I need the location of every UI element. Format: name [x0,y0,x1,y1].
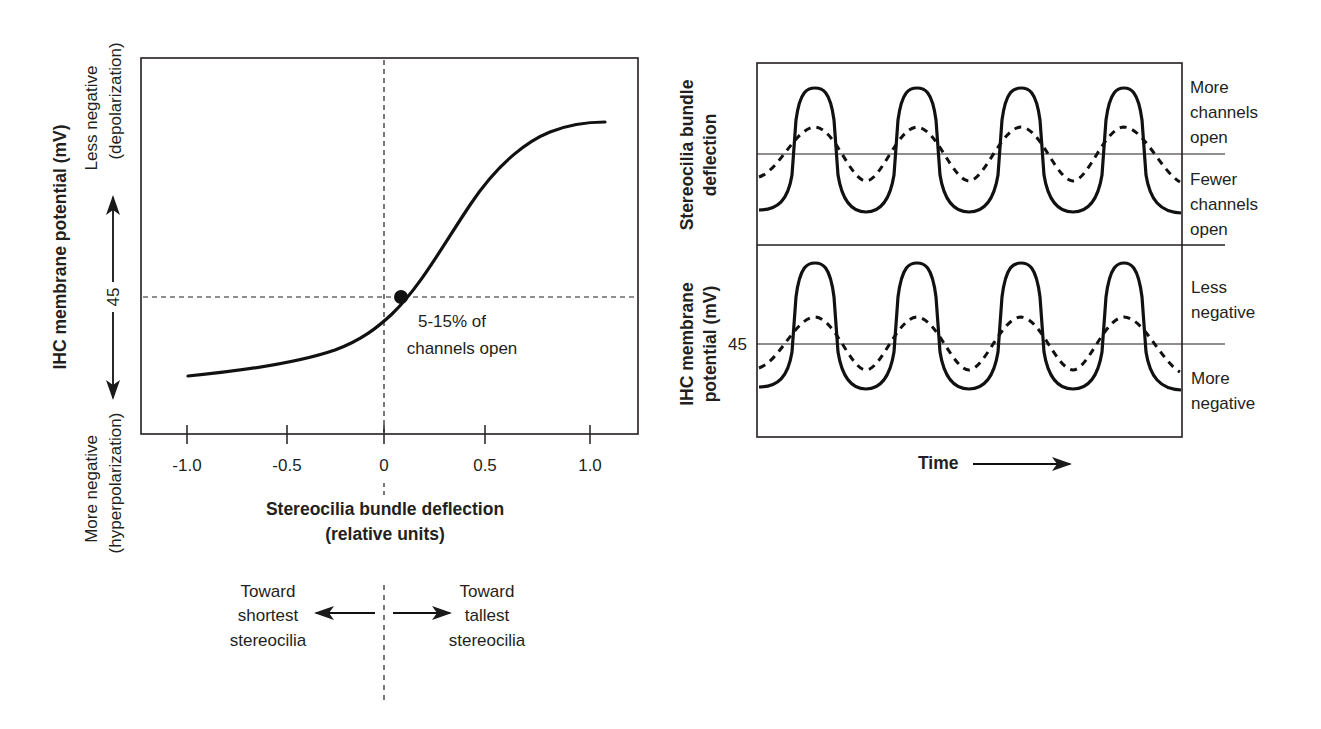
fewer-channels-open-label: open [1190,220,1228,239]
direction-right-label: stereocilia [449,631,526,650]
x-tick-label: 1.0 [578,456,602,475]
bottom-y-axis-title-2: potential (mV) [700,286,720,403]
bundle-deflection-large-wave [759,88,1181,213]
x-tick-label: 0.5 [473,456,497,475]
time-axis-title: Time [918,453,959,473]
x-tick-label: 0 [379,456,388,475]
y-tick-label-45: 45 [104,288,123,307]
plot-frame [141,58,638,434]
y-lower-label-sub: (hyperpolarization) [106,413,125,554]
figure-canvas: 5-15% of channels open -1.0 -0.5 0 0.5 1… [0,0,1321,729]
more-negative-label: negative [1191,394,1255,413]
annotation-line-2: channels open [407,339,518,358]
y-upper-label-sub: (depolarization) [106,42,125,159]
y-lower-label: More negative [82,435,101,543]
y-tick-label-45-right: 45 [728,335,747,354]
plot-frame-right [757,63,1182,437]
time-domain-chart: More channels open Fewer channels open L… [677,63,1258,473]
annotation-line-1: 5-15% of [418,312,486,331]
operating-point-dot [394,290,408,304]
more-channels-open-label: open [1190,128,1228,147]
direction-left-label: stereocilia [230,631,307,650]
direction-left-label: shortest [238,606,299,625]
x-tick-label: -1.0 [172,456,201,475]
y-upper-label: Less negative [82,66,101,171]
more-negative-label: More [1191,369,1230,388]
x-tick-label: -0.5 [272,456,301,475]
direction-right-label: Toward [460,582,515,601]
sigmoid-curve [188,122,605,376]
less-negative-label: negative [1191,303,1255,322]
more-channels-open-label: channels [1190,103,1258,122]
top-y-axis-title-2: deflection [700,114,720,197]
top-y-axis-title: Stereocilia bundle [677,79,697,230]
y-axis-title: IHC membrane potential (mV) [50,124,70,369]
direction-right-label: tallest [465,606,510,625]
fewer-channels-open-label: channels [1190,195,1258,214]
more-channels-open-label: More [1190,78,1229,97]
bottom-y-axis-title: IHC membrane [677,282,697,406]
x-axis-title: Stereocilia bundle deflection [266,499,504,519]
fewer-channels-open-label: Fewer [1190,170,1238,189]
x-axis-subtitle: (relative units) [325,524,445,544]
direction-left-label: Toward [241,582,296,601]
transfer-function-chart: 5-15% of channels open -1.0 -0.5 0 0.5 1… [50,42,638,700]
less-negative-label: Less [1191,278,1227,297]
